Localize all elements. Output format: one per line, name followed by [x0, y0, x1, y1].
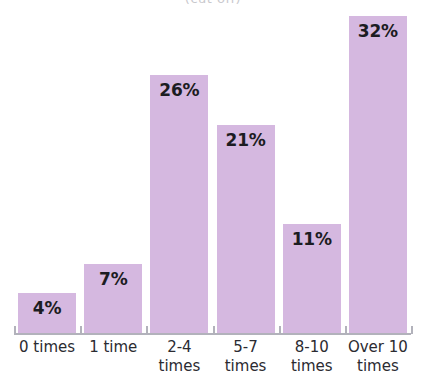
x-axis-labels: 0 times1 time2-4times5-7times8-10timesOv…: [14, 338, 411, 384]
x-axis-tick-label-line: 1 time: [80, 338, 146, 357]
axis-tick-mark: [80, 326, 82, 334]
bar: 4%: [18, 293, 76, 333]
x-axis-tick-label-line: 0 times: [14, 338, 80, 357]
x-axis-tick-label: 0 times: [14, 338, 80, 357]
bar-group: 7%: [84, 6, 142, 333]
bar-chart: (cut off) 4%7%26%21%11%32% 0 times1 time…: [0, 0, 426, 385]
x-axis-tick-label-line: Over 10: [345, 338, 411, 357]
x-axis-tick-label: Over 10times: [345, 338, 411, 376]
bar-group: 4%: [18, 6, 76, 333]
x-axis-tick-label-line: times: [345, 357, 411, 376]
axis-tick-mark: [213, 326, 215, 334]
plot-area: 4%7%26%21%11%32%: [14, 6, 411, 333]
axis-tick-mark: [411, 326, 413, 334]
bar-group: 11%: [283, 6, 341, 333]
axis-tick-mark: [279, 326, 281, 334]
bar-value-label: 4%: [18, 298, 76, 318]
bar-value-label: 32%: [349, 21, 407, 41]
bar: 11%: [283, 224, 341, 333]
x-axis-tick-label-line: times: [213, 357, 279, 376]
bar-value-label: 26%: [150, 80, 208, 100]
axis-tick-mark: [345, 326, 347, 334]
x-axis-tick-label: 8-10times: [279, 338, 345, 376]
bar-value-label: 21%: [217, 130, 275, 150]
x-axis-tick-label: 1 time: [80, 338, 146, 357]
bar-group: 26%: [150, 6, 208, 333]
bar-group: 32%: [349, 6, 407, 333]
axis-tick-mark: [146, 326, 148, 334]
x-axis-tick-label-line: 2-4: [146, 338, 212, 357]
x-axis-tick-label: 2-4times: [146, 338, 212, 376]
axis-tick-mark: [14, 326, 16, 334]
x-axis-tick-label-line: times: [146, 357, 212, 376]
bar-value-label: 7%: [84, 269, 142, 289]
bar: 7%: [84, 264, 142, 333]
bar: 32%: [349, 16, 407, 333]
x-axis-tick-label-line: 8-10: [279, 338, 345, 357]
bar-value-label: 11%: [283, 229, 341, 249]
bar: 26%: [150, 75, 208, 333]
bar: 21%: [217, 125, 275, 333]
x-axis-tick-label-line: 5-7: [213, 338, 279, 357]
x-axis-tick-label-line: times: [279, 357, 345, 376]
bar-group: 21%: [217, 6, 275, 333]
x-axis-tick-label: 5-7times: [213, 338, 279, 376]
